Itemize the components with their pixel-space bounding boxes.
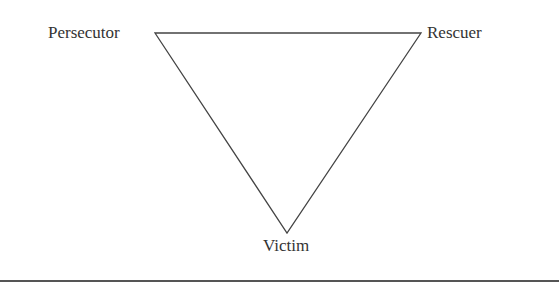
bottom-divider bbox=[0, 280, 559, 282]
node-label-victim: Victim bbox=[263, 236, 309, 256]
node-label-persecutor: Persecutor bbox=[48, 23, 120, 43]
drama-triangle-shape bbox=[155, 33, 421, 233]
node-label-rescuer: Rescuer bbox=[427, 23, 482, 43]
